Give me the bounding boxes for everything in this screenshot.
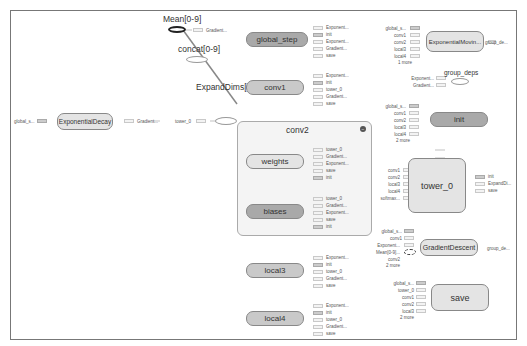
port-label: tower_0 [326,87,342,92]
expdecay-out-label: Gradient... [137,119,158,124]
node-label: GradientDescent [423,244,476,251]
port-label: Gradient... [326,94,347,99]
port-label: Gradient... [410,83,434,88]
port-label: conv1 [382,111,406,116]
port-label: conv1 [390,295,414,300]
mean-label: Mean[0-9] [163,14,201,24]
port-label: global_s... [378,229,402,234]
port-label: Gradient... [326,203,347,208]
port-label: init [326,224,332,229]
port-label: save [326,53,336,58]
port-label: Exponent... [326,25,349,30]
port-label: local3 [382,125,406,130]
port-label: tower_0 [326,147,342,152]
port-label: save [326,217,336,222]
exponential-moving-average-node[interactable]: ExponentialMovin... [426,31,484,52]
port-label: Exponent... [326,255,349,260]
local3-node[interactable]: local3 [246,263,304,278]
biases-node[interactable]: biases [246,204,304,219]
port-label: group_de... [485,40,508,45]
node-label: conv1 [264,83,285,92]
port-label: Gradient... [326,154,347,159]
node-label: weights [261,157,288,166]
node-label: biases [263,207,286,216]
expdecay-out-stub [124,119,134,123]
port-label: global_s... [384,26,406,31]
port-label: softmax... [372,196,400,201]
global-step-node[interactable]: global_step [246,32,308,47]
port-label: 1 more [384,60,412,65]
port-label: init [326,175,332,180]
port-label: local3 [378,182,400,187]
exponential-decay-node[interactable]: ExponentialDecay [57,113,113,130]
port-label: conv2 [390,302,414,307]
port-label: global_s... [382,104,406,109]
port-label: Exponent... [372,243,400,248]
group-deps-node[interactable] [451,78,469,85]
concat-label: concat[0-9] [178,44,220,54]
expanddims-node[interactable] [215,117,237,125]
port-label: init [326,310,332,315]
port-label: local4 [378,189,400,194]
save-node[interactable]: save [431,284,489,311]
port-label: conv2 [382,118,406,123]
port-label: local3 [390,309,414,314]
port-label: tower_0 [326,196,342,201]
port-label: 2 more [384,315,414,320]
port-label: conv2 [378,257,400,262]
mean-node[interactable] [168,26,186,33]
collapse-icon[interactable]: − [360,126,366,132]
conv1-node[interactable]: conv1 [246,80,304,95]
expdecay-in-stub [37,119,47,123]
node-label: global_step [257,35,298,44]
mean-ref-node [404,249,416,255]
port-label: local4 [384,54,406,59]
port-label: Mean[0-9]... [368,250,400,255]
port-label: local3 [384,47,406,52]
port-label: save [326,331,336,336]
port-label: save [488,188,498,193]
node-label: local4 [265,314,286,323]
port-label: Exponent... [326,39,349,44]
port-label: save [326,168,336,173]
port-label: Exponent... [410,76,434,81]
port-label: init [326,80,332,85]
gradient-descent-node[interactable]: GradientDescent [420,239,478,256]
port-label: ExpandDi... [488,181,511,186]
port-label: conv1 [384,33,406,38]
node-label: tower_0 [421,181,453,191]
port-label: Gradient... [326,46,347,51]
node-label: save [450,293,469,303]
port-label: Exponent... [326,210,349,215]
weights-node[interactable]: weights [246,154,304,169]
node-label: ExponentialDecay [59,118,111,125]
init-node[interactable]: init [430,112,488,127]
local4-node[interactable]: local4 [246,311,304,326]
port-label: global_s... [390,281,414,286]
port-label: init [326,32,332,37]
port-label: init [488,174,494,179]
port-label: conv2 [384,40,406,45]
port-label: local4 [382,132,406,137]
port-label: tower_0 [390,288,414,293]
port-label: 2 more [372,263,400,268]
conv2-title: conv2 [286,125,309,135]
port-label: save [326,283,336,288]
node-label: ExponentialMovin... [429,39,481,45]
port-label: group_de... [487,246,510,251]
tower-0-node[interactable]: tower_0 [408,158,466,213]
concat-node[interactable] [186,56,208,63]
port-label: conv1 [378,236,402,241]
group-deps-label: group_deps [444,69,478,76]
port-label: init [326,262,332,267]
port-label: Exponent... [326,161,349,166]
mean-out-label: Gradient... [206,28,227,33]
port-label: tower_0 [326,317,342,322]
expdecay-in-label: global_s... [14,119,35,124]
mean-out-stub [193,28,203,32]
node-label: local3 [265,266,286,275]
expanddims-in-stub [196,119,206,123]
port-label: Exponent... [326,73,349,78]
port-label: save [326,101,336,106]
port-label: tower_0 [326,269,342,274]
